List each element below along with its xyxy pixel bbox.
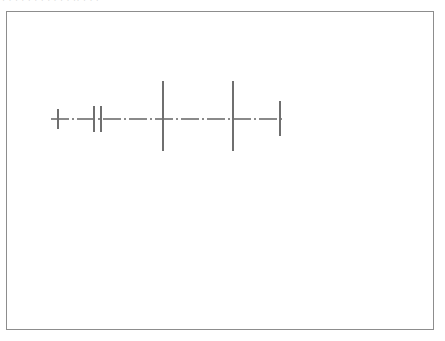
tick-mark-group: [58, 81, 280, 151]
top-edge-artifact-text: · · · · · · · · · · · ·· · · ·: [2, 0, 99, 5]
drawing-border: [6, 11, 434, 330]
centerline-diagram: [7, 12, 435, 331]
drawing-canvas: · · · · · · · · · · · ·· · · ·: [0, 0, 445, 341]
top-edge-artifact: · · · · · · · · · · · ·· · · ·: [0, 0, 445, 7]
